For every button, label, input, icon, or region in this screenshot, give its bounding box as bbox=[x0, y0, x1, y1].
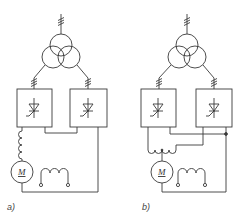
thyristor-icon bbox=[80, 98, 93, 118]
motor-label: M bbox=[17, 167, 26, 177]
transformer-icon bbox=[31, 14, 91, 89]
center-tapped-reactor-icon bbox=[148, 127, 203, 161]
panel-b bbox=[141, 14, 232, 192]
converter-box-2 bbox=[70, 89, 107, 127]
panel-a bbox=[11, 14, 107, 192]
converter-link-wire bbox=[170, 127, 226, 134]
transformer-icon bbox=[156, 14, 217, 89]
thyristor-icon bbox=[206, 98, 219, 118]
panel-label-a: a) bbox=[7, 202, 15, 212]
thyristor-icon bbox=[150, 98, 163, 118]
field-winding-icon bbox=[176, 169, 206, 187]
converter-box-1 bbox=[141, 89, 176, 127]
converter-box-1 bbox=[17, 89, 52, 127]
schematic-canvas: M a) bbox=[0, 0, 245, 223]
field-winding-icon bbox=[39, 169, 69, 187]
panel-label-b: b) bbox=[142, 202, 150, 212]
motor-label: M bbox=[157, 167, 166, 177]
converter-link-wire bbox=[45, 127, 77, 133]
inductor-icon bbox=[19, 127, 22, 161]
thyristor-icon bbox=[26, 98, 39, 118]
return-wire bbox=[162, 127, 226, 192]
return-wire bbox=[22, 127, 98, 192]
